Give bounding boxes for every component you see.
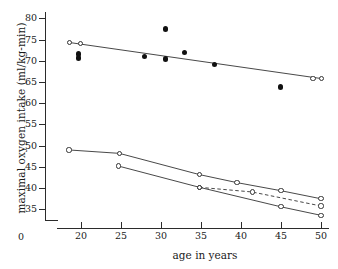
data-point-open <box>318 196 323 201</box>
data-point-filled <box>163 56 168 61</box>
x-tick-label: 30 <box>148 231 174 241</box>
y-axis-line <box>45 12 46 220</box>
y-tick-mark <box>39 61 45 62</box>
x-tick-mark <box>321 222 322 228</box>
data-point-filled <box>278 84 283 89</box>
data-point-open <box>318 203 323 208</box>
x-axis-label: age in years <box>0 249 338 261</box>
x-tick-label: 20 <box>68 231 94 241</box>
x-tick-mark <box>201 222 202 228</box>
data-point-filled <box>76 55 81 60</box>
x-tick-label: 45 <box>268 231 294 241</box>
y-tick-mark <box>39 40 45 41</box>
data-point-open <box>66 147 71 152</box>
series-line <box>199 187 321 206</box>
y-tick-label: 55 <box>12 119 37 128</box>
x-tick-label: 25 <box>108 231 134 241</box>
chart-container: maximal oxygen intake (ml/kg-min) 354045… <box>0 0 338 269</box>
y-tick-label: 70 <box>12 56 37 65</box>
x-tick-mark <box>81 222 82 228</box>
x-tick-label: 50 <box>308 231 334 241</box>
data-point-open <box>67 40 72 45</box>
x-tick-mark <box>121 222 122 228</box>
data-point-open <box>234 180 239 185</box>
y-tick-label: 80 <box>12 13 37 22</box>
data-point-open <box>319 76 324 81</box>
y-tick-mark <box>39 124 45 125</box>
x-tick-mark <box>241 222 242 228</box>
x-tick-mark <box>281 222 282 228</box>
y-tick-label: 60 <box>12 98 37 107</box>
y-tick-label: 35 <box>12 204 37 213</box>
x-tick-label: 40 <box>228 231 254 241</box>
y-tick-mark <box>39 209 45 210</box>
data-point-open <box>318 213 323 218</box>
data-point-filled <box>182 50 187 55</box>
y-tick-mark <box>39 82 45 83</box>
y-tick-mark <box>39 167 45 168</box>
y-tick-label: 40 <box>12 183 37 192</box>
data-point-filled <box>212 62 217 67</box>
data-point-filled <box>163 26 168 31</box>
y-tick-mark <box>39 103 45 104</box>
x-axis-line <box>57 228 329 229</box>
x-tick-label: 35 <box>188 231 214 241</box>
y-tick-label: 45 <box>12 162 37 171</box>
y-tick-label: 75 <box>12 35 37 44</box>
origin-label: 0 <box>13 231 29 242</box>
data-point-open <box>310 76 315 81</box>
data-point-open <box>197 172 202 177</box>
series-line <box>70 43 322 79</box>
y-tick-label: 65 <box>12 77 37 86</box>
data-point-open <box>116 163 121 168</box>
axis-break-connector <box>45 220 58 221</box>
y-tick-label: 50 <box>12 141 37 150</box>
data-point-open <box>278 188 283 193</box>
data-point-open <box>278 204 283 209</box>
data-point-filled <box>142 54 147 59</box>
series-line <box>119 166 321 215</box>
y-tick-mark <box>39 146 45 147</box>
y-tick-mark <box>39 188 45 189</box>
data-point-open <box>197 185 202 190</box>
data-point-open <box>250 189 255 194</box>
data-point-open <box>78 41 83 46</box>
data-point-open <box>117 151 122 156</box>
y-tick-mark <box>39 18 45 19</box>
x-tick-mark <box>161 222 162 228</box>
